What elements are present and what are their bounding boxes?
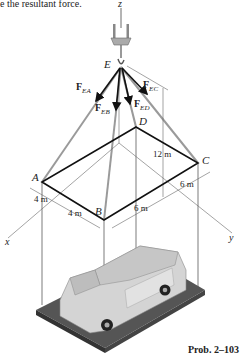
y-axis-label: y [229, 233, 233, 243]
point-a-label: A [32, 172, 39, 183]
diagram-stage: e the resultant force. z x y E A B C D F… [0, 0, 249, 360]
dim-ab-second-label: 4 m [68, 209, 82, 218]
point-d-label: D [139, 116, 147, 127]
problem-caption: Prob. 2–103 [188, 345, 239, 355]
lift-frame [42, 127, 198, 220]
force-ec-label: FEC [143, 80, 158, 93]
point-b-label: B [95, 206, 102, 217]
header-partial-text: e the resultant force. [0, 0, 82, 9]
force-ea-label: FEA [76, 82, 91, 95]
x-axis-label: x [5, 237, 9, 247]
dim-bc-far-label: 6 m [180, 180, 194, 189]
dim-bc-near-label: 6 m [134, 204, 148, 213]
dim-height-label: 12 m [153, 150, 171, 159]
force-eb-label: FEB [95, 103, 110, 116]
point-e-label: E [104, 59, 111, 70]
van-illustration [60, 246, 186, 333]
force-ed-label: FED [134, 99, 149, 112]
point-c-label: C [202, 155, 209, 166]
z-axis-label: z [118, 0, 122, 9]
crane-hook-icon [111, 24, 131, 64]
dim-ab-first-label: 4 m [34, 195, 48, 204]
